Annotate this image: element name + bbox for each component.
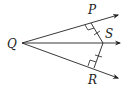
- label-s: S: [105, 27, 113, 41]
- label-p: P: [87, 3, 97, 17]
- ray-qp: [22, 15, 118, 43]
- tick-mark-ps: [94, 31, 100, 35]
- label-r: R: [87, 73, 97, 87]
- geometry-diagram: Q P S R: [0, 0, 128, 88]
- label-q: Q: [7, 37, 17, 51]
- ray-qr: [22, 43, 118, 78]
